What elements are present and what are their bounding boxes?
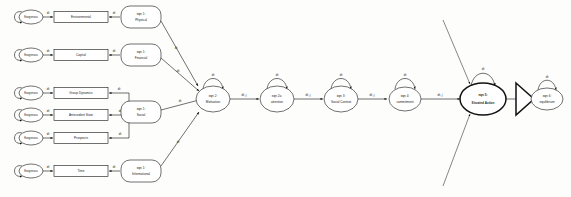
box-label-environmental: Environmental <box>71 15 91 19</box>
edge-social-to-group-dynamics <box>109 93 129 103</box>
self-loop-label-social-context: dt <box>340 73 343 77</box>
node-eqn1-informational-line1: eqn 1: <box>137 166 146 170</box>
row-prospects: Exogenous dt Prospects dt <box>15 120 130 145</box>
node-attention-line2: attention <box>271 100 283 104</box>
edge-label-financial-motivation: dt <box>177 69 180 73</box>
box-label-capital: Capital <box>76 53 86 57</box>
node-eqn1-social-line2: Social <box>137 113 146 117</box>
node-eqn1-financial[interactable] <box>121 44 161 66</box>
edge-label-informational-time: dt <box>113 165 116 169</box>
box-label-prospects: Prospects <box>74 136 88 140</box>
edge-financial-to-motivation <box>161 58 199 91</box>
node-commitment-line1: eqn 4: <box>401 94 410 98</box>
exogenous-label-1: Exogenous <box>24 15 38 19</box>
node-equilibrium-line1: eqn 6: <box>543 94 552 98</box>
node-eqn1-physical[interactable] <box>121 6 161 28</box>
exogenous-label-4: Exogenous <box>24 113 38 117</box>
edge-label-physical-motivation: dt <box>175 46 178 50</box>
node-commitment-group: dt eqn 4: commitment dt, j <box>389 73 460 111</box>
edge-label-informational-motivation: dt <box>177 140 180 144</box>
edge-informational-to-motivation <box>161 112 199 166</box>
node-situated-action-line1: eqn 5: <box>478 93 487 97</box>
node-motivation-line1: eqn 2: <box>209 94 218 98</box>
node-eqn1-social-line1: eqn 1: <box>137 107 146 111</box>
box-label-group-dynamics: Group Dynamics <box>69 91 93 95</box>
exogenous-label-6: Exogenous <box>24 169 38 173</box>
node-social-context-line1: eqn 3: <box>337 94 346 98</box>
exogenous-label-2: Exogenous <box>24 53 38 57</box>
edge-label-commitment-situated-action: dt, j <box>438 93 443 97</box>
box-label-antecedent-state: Antecedent State <box>69 113 93 117</box>
node-eqn1-financial-line2: Financial <box>135 56 148 60</box>
row-capital: Exogenous dt Capital dt eqn 1: Financial… <box>15 44 200 91</box>
edge-label-exo-time: dt <box>47 165 50 169</box>
node-situated-action-group: dt eqn 5: Situated Action <box>443 20 534 186</box>
node-equilibrium-group: dt eqn 6: equilibrium <box>531 75 563 110</box>
edge-lower-inflow-situated-action <box>443 114 470 186</box>
row-time: Exogenous dt Time dt eqn 1: Informationa… <box>15 112 200 182</box>
node-eqn1-financial-line1: eqn 1: <box>137 50 146 54</box>
node-attention-line1: eqn 2a: <box>272 94 283 98</box>
node-eqn1-physical-line1: eqn 1: <box>137 12 146 16</box>
edge-label-exo-capital: dt <box>47 49 50 53</box>
row-group-dynamics: Exogenous dt Group Dynamics dt <box>15 86 130 103</box>
node-social-context-line2: Social Context <box>331 100 351 104</box>
node-situated-action[interactable] <box>460 83 506 115</box>
edge-label-exo-group-dynamics: dt <box>47 87 50 91</box>
edge-label-social-group-dynamics: dt <box>118 87 121 91</box>
self-loop-label-motivation: dt <box>212 73 215 77</box>
self-loop-label-equilibrium: dt <box>546 75 549 79</box>
diagram-graph: Exogenous dt Environmental dt eqn 1: Phy… <box>0 0 571 197</box>
node-equilibrium[interactable] <box>531 88 563 110</box>
edge-label-social-motivation: dt <box>179 99 182 103</box>
node-motivation[interactable] <box>196 86 230 112</box>
edge-label-motivation-attention: dt, j <box>242 93 247 97</box>
node-eqn1-informational[interactable] <box>121 160 161 182</box>
self-loop-label-commitment: dt <box>404 73 407 77</box>
diagram-canvas: Exogenous dt Environmental dt eqn 1: Phy… <box>0 0 571 197</box>
node-attention[interactable] <box>260 86 294 112</box>
node-eqn1-informational-line2: Informational <box>132 172 150 176</box>
node-eqn1-social[interactable] <box>121 101 161 123</box>
exogenous-label-5: Exogenous <box>24 136 38 140</box>
exogenous-label-3: Exogenous <box>24 91 38 95</box>
edge-label-social-context-commitment: dt, j <box>370 93 375 97</box>
edge-upper-inflow-situated-action <box>443 20 470 84</box>
row-antecedent-state: Exogenous dt Antecedent State dt <box>15 108 130 122</box>
edge-physical-to-motivation <box>161 21 198 86</box>
node-eqn1-social-group: eqn 1: Social dt <box>121 99 199 123</box>
node-motivation-line2: Motivation <box>206 100 221 104</box>
edge-label-attention-social-context: dt, j <box>306 93 311 97</box>
self-loop-label-situated-action: dt <box>482 67 485 71</box>
node-social-context[interactable] <box>324 86 358 112</box>
edge-label-physical-environmental: dt <box>113 11 116 15</box>
node-commitment[interactable] <box>389 87 421 111</box>
node-eqn1-physical-line2: Physical <box>135 18 147 22</box>
edge-label-exo-environmental: dt <box>47 11 50 15</box>
box-label-time: Time <box>78 169 85 173</box>
self-loop-label-attention: dt <box>276 73 279 77</box>
edge-label-financial-capital: dt <box>113 49 116 53</box>
node-social-context-group: dt eqn 3: Social Context dt, j <box>324 73 387 112</box>
edge-label-exo-antecedent-state: dt <box>47 109 50 113</box>
node-equilibrium-line2: equilibrium <box>539 100 555 104</box>
node-commitment-line2: commitment <box>396 100 413 104</box>
node-situated-action-line2: Situated Action <box>472 101 495 105</box>
edge-label-exo-prospects: dt <box>47 132 50 136</box>
node-motivation-group: dt eqn 2: Motivation dt, j <box>196 73 259 112</box>
edge-label-social-prospects: dt <box>119 132 122 136</box>
node-attention-group: dt eqn 2a: attention dt, j <box>260 73 323 112</box>
row-environmental: Exogenous dt Environmental dt eqn 1: Phy… <box>15 6 199 86</box>
